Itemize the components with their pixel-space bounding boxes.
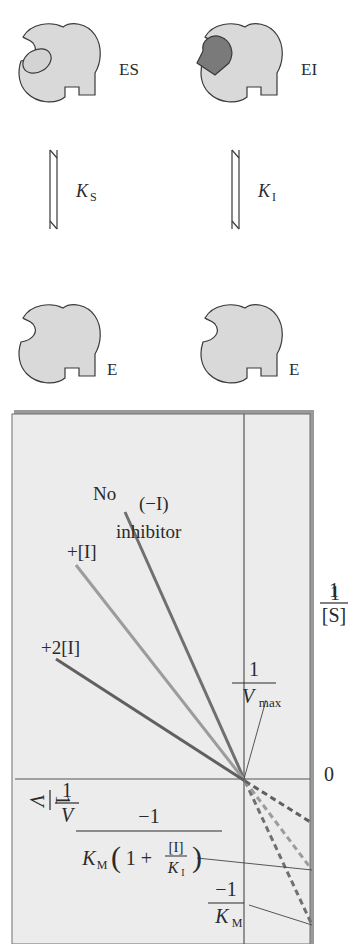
svg-text:[S]: [S] [322, 604, 346, 626]
svg-text:K: K [257, 181, 271, 201]
svg-text:(: ( [111, 840, 121, 874]
svg-text:S: S [90, 190, 97, 204]
svg-text:K: K [167, 859, 180, 876]
svg-text:(−I): (−I) [139, 493, 169, 515]
svg-text:−1: −1 [215, 878, 236, 900]
svg-text:1: 1 [249, 658, 259, 680]
label-ES: ES [119, 60, 139, 79]
label-plus-2I: +2[I] [41, 637, 80, 658]
label-E-bottom: E [289, 360, 299, 379]
equilibrium-arrow-ks[interactable] [50, 150, 57, 229]
svg-text:M: M [232, 916, 243, 930]
svg-text:K: K [81, 847, 97, 869]
enzyme-inhibitor-complex [197, 24, 282, 102]
svg-text:1 +: 1 + [126, 847, 152, 869]
x-axis-fraction: 1 [S] [320, 579, 348, 626]
label-ks: K S [75, 181, 97, 204]
enzyme-substrate-complex [19, 24, 101, 102]
rotated-figure: 1 V 1 0 +2[I] +[I] No inhibitor (−I) 1 [… [0, 0, 359, 944]
label-ki: K I [257, 181, 276, 204]
label-EI: EI [301, 60, 317, 79]
svg-text:K: K [75, 181, 89, 201]
svg-text:I: I [181, 867, 184, 878]
svg-text:1: 1 [62, 779, 72, 801]
label-E-top: E [107, 360, 117, 379]
svg-text:inhibitor: inhibitor [116, 521, 182, 542]
svg-text:1: 1 [329, 579, 339, 601]
enzyme-E-top [19, 305, 100, 383]
scheme-top-row: E K S ES [19, 24, 139, 383]
svg-text:): ) [192, 840, 202, 874]
svg-text:[I]: [I] [169, 839, 184, 855]
svg-text:I: I [272, 190, 276, 204]
origin-label: 0 [324, 763, 334, 785]
svg-text:max: max [259, 695, 282, 710]
enzyme-E-bottom [201, 305, 282, 383]
svg-text:No: No [93, 483, 116, 504]
svg-text:M: M [97, 858, 108, 872]
svg-text:K: K [214, 905, 230, 927]
svg-text:−1: −1 [138, 805, 159, 827]
equilibrium-arrow-ki[interactable] [232, 150, 239, 229]
label-plus-I: +[I] [67, 541, 97, 562]
scheme-bottom-row: E K I EI [197, 24, 317, 383]
figure-canvas: 1 V 1 0 +2[I] +[I] No inhibitor (−I) 1 [… [0, 0, 359, 944]
